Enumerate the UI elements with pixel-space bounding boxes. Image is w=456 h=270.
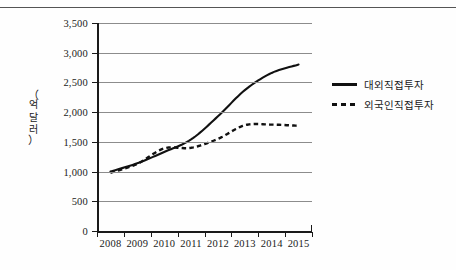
- gridline: [97, 201, 312, 202]
- gridline: [97, 172, 312, 173]
- y-axis-tick-label: 3,500: [63, 18, 88, 29]
- x-axis-tick: [205, 232, 206, 237]
- x-axis-tick-label: 2012: [207, 238, 229, 249]
- y-axis-tick-label: 3,000: [63, 47, 88, 58]
- y-axis-tick-label: 2,000: [63, 107, 88, 118]
- gridline: [97, 53, 312, 54]
- gridline: [97, 142, 312, 143]
- x-axis-tick-label: 2013: [234, 238, 256, 249]
- y-axis-tick-label: 1,500: [63, 136, 88, 147]
- y-axis-tick: [92, 82, 97, 83]
- y-axis-tick: [92, 231, 97, 232]
- gridline: [97, 23, 312, 24]
- x-axis-tick-label: 2008: [100, 238, 122, 249]
- series-line-outward-fdi: [110, 65, 298, 172]
- gridline: [97, 112, 312, 113]
- y-axis-tick-label: 1,000: [63, 166, 88, 177]
- y-axis-tick-label: 0: [83, 226, 88, 237]
- x-axis-right-cap: [311, 225, 312, 232]
- x-axis-tick-label: 2015: [288, 238, 310, 249]
- solid-line-key-icon: [332, 79, 357, 89]
- legend-item-outward-fdi: 대외직접투자: [332, 74, 452, 94]
- x-axis-tick-label: 2009: [126, 238, 148, 249]
- y-axis-tick: [92, 201, 97, 202]
- x-axis-tick: [231, 232, 232, 237]
- series-line-inward-fdi: [110, 124, 298, 173]
- x-axis-tick: [312, 232, 313, 237]
- chart-figure: （ 억 달 러 ） 05001,0001,5002,0002,5003,0003…: [0, 0, 456, 270]
- legend-label-outward-fdi: 대외직접투자: [364, 77, 424, 92]
- x-axis-tick: [124, 232, 125, 237]
- y-axis-tick: [92, 172, 97, 173]
- x-axis-tick-label: 2014: [261, 238, 283, 249]
- legend-item-inward-fdi: 외국인직접투자: [332, 94, 452, 114]
- y-axis-tick-label: 2,500: [63, 77, 88, 88]
- x-axis-tick-label: 2010: [153, 238, 175, 249]
- series-lines: [97, 23, 312, 231]
- dashed-line-key-icon: [332, 99, 357, 109]
- x-axis-tick: [178, 232, 179, 237]
- y-axis-tick: [92, 23, 97, 24]
- x-axis-tick: [258, 232, 259, 237]
- x-axis-tick: [285, 232, 286, 237]
- gridline: [97, 82, 312, 83]
- x-axis-tick: [151, 232, 152, 237]
- x-axis-tick-label: 2011: [180, 238, 201, 249]
- y-axis-tick: [92, 112, 97, 113]
- y-axis-tick: [92, 142, 97, 143]
- y-axis-line: [97, 23, 99, 232]
- chart-legend: 대외직접투자 외국인직접투자: [332, 74, 452, 114]
- plot-area: [97, 23, 312, 231]
- y-axis-tick: [92, 53, 97, 54]
- y-axis-tick-labels: 05001,0001,5002,0002,5003,0003,500: [0, 0, 88, 270]
- y-axis-tick-label: 500: [72, 196, 88, 207]
- legend-label-inward-fdi: 외국인직접투자: [364, 97, 434, 112]
- x-axis-tick: [97, 232, 98, 237]
